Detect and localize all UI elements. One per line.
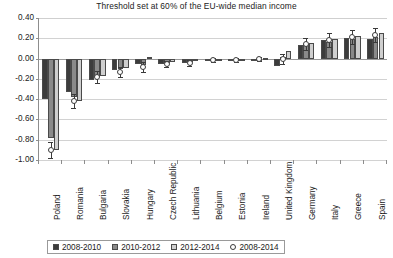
bar-group <box>182 18 199 160</box>
y-tick-label: 0.20 <box>0 33 34 42</box>
data-point-marker <box>233 57 239 63</box>
bar-group <box>158 18 175 160</box>
bar <box>48 59 54 138</box>
data-point-marker <box>117 69 123 75</box>
bar-group <box>89 18 106 160</box>
bar <box>112 59 118 70</box>
legend-label: 2010-2012 <box>121 243 160 252</box>
x-axis-label: Greece <box>354 193 363 220</box>
y-tick-mark <box>36 59 39 60</box>
error-bar-cap-lower <box>164 67 169 68</box>
error-bar-cap-lower <box>118 77 123 78</box>
chart-title: Threshold set at 60% of the EU-wide medi… <box>0 1 393 11</box>
legend-item[interactable]: 2012-2014 <box>171 243 219 252</box>
bar <box>274 59 280 66</box>
bar <box>216 59 222 61</box>
error-bar-cap-upper <box>280 54 285 55</box>
legend-swatch-icon <box>53 244 59 250</box>
error-bar-cap-upper <box>118 67 123 68</box>
bar-group <box>66 18 83 160</box>
bar <box>71 59 77 98</box>
legend-item[interactable]: 2008-2014 <box>230 243 278 252</box>
x-axis-label: Belgium <box>215 190 224 220</box>
bar <box>367 39 373 58</box>
legend-label: 2008-2014 <box>239 243 278 252</box>
bar <box>100 59 106 76</box>
x-tick-mark <box>386 160 387 164</box>
bar <box>379 33 385 58</box>
bar <box>355 36 361 58</box>
data-point-marker <box>187 60 193 66</box>
bar-group <box>135 18 152 160</box>
x-axis-label: Estonia <box>238 193 247 220</box>
error-bar-cap-lower <box>48 158 53 159</box>
y-tick-label: -0.40 <box>0 94 34 103</box>
bar <box>239 59 245 61</box>
error-bar-cap-upper <box>373 28 378 29</box>
y-tick-mark <box>36 18 39 19</box>
error-bar-cap-lower <box>327 47 332 48</box>
bar-group <box>274 18 291 160</box>
x-axis-labels: PolandRomaniaBulgariaSlovakiaHungaryCzec… <box>38 164 386 222</box>
legend-marker-icon <box>230 244 236 250</box>
data-point-marker <box>48 147 54 153</box>
legend-swatch-icon <box>171 244 177 250</box>
error-bar-cap-upper <box>48 142 53 143</box>
y-tick-mark <box>36 79 39 80</box>
bar <box>66 59 72 92</box>
bar-group <box>228 18 245 160</box>
bar-group <box>321 18 338 160</box>
bar <box>286 51 292 58</box>
bar <box>298 45 304 58</box>
y-tick-mark <box>36 140 39 141</box>
y-tick-label: -0.80 <box>0 135 34 144</box>
error-bar-cap-lower <box>187 66 192 67</box>
error-bar-cap-upper <box>95 71 100 72</box>
x-axis-label: Germany <box>308 186 317 220</box>
bar-group <box>367 18 384 160</box>
y-tick-label: -0.60 <box>0 114 34 123</box>
legend-label: 2012-2014 <box>180 243 219 252</box>
x-axis-label: Bulgaria <box>99 190 108 220</box>
error-bar-cap-lower <box>303 50 308 51</box>
y-tick-mark <box>36 119 39 120</box>
chart-legend: 2008-20102010-20122012-20142008-2014 <box>47 240 285 254</box>
error-bar-cap-lower <box>71 108 76 109</box>
y-tick-label: -0.20 <box>0 74 34 83</box>
bar-group <box>344 18 361 160</box>
data-point-marker <box>256 56 262 62</box>
y-tick-mark <box>36 38 39 39</box>
plot-area <box>38 18 386 160</box>
x-axis-label: Poland <box>53 195 62 221</box>
error-bar-cap-upper <box>71 94 76 95</box>
legend-item[interactable]: 2008-2010 <box>53 243 101 252</box>
x-axis-label: Hungary <box>146 189 155 220</box>
error-bar-cap-upper <box>327 33 332 34</box>
bar <box>321 40 327 58</box>
error-bar-cap-upper <box>303 38 308 39</box>
bar <box>193 59 199 61</box>
x-axis-label: United Kingdom <box>285 162 294 220</box>
bar <box>332 39 338 58</box>
x-axis-label: Ireland <box>262 195 271 220</box>
error-bar-cap-lower <box>350 44 355 45</box>
x-axis-label: Czech Republic <box>169 163 178 220</box>
bar <box>309 43 315 58</box>
y-tick-label: 0.00 <box>0 54 34 63</box>
data-point-marker <box>140 64 146 70</box>
error-bar-cap-lower <box>141 72 146 73</box>
legend-item[interactable]: 2010-2012 <box>112 243 160 252</box>
bar <box>42 59 48 100</box>
bar <box>123 59 129 68</box>
bar <box>344 38 350 58</box>
data-point-marker <box>71 98 77 104</box>
x-axis-label: Slovakia <box>122 189 131 220</box>
bar-group <box>298 18 315 160</box>
x-axis-label: Spain <box>378 199 387 220</box>
x-axis-label: Lithuania <box>192 187 201 220</box>
bar <box>77 59 83 102</box>
bar <box>263 58 269 60</box>
error-bar-cap-upper <box>141 62 146 63</box>
data-point-marker <box>280 56 286 62</box>
legend-label: 2008-2010 <box>62 243 101 252</box>
